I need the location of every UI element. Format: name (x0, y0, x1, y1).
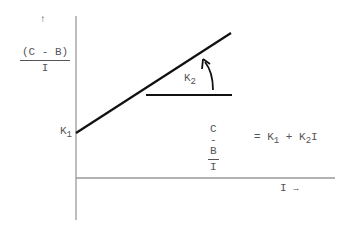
x-axis-label: I → (280, 183, 299, 194)
slope-angle-arrow (205, 62, 213, 90)
regression-line (76, 33, 231, 133)
term1-sub: 1 (274, 136, 279, 146)
equation-rhs: = K1 + K2I (254, 132, 318, 146)
slope-label-sub: 2 (191, 77, 196, 87)
term2-base: K (299, 131, 306, 143)
y-axis-label: (C - B) I (20, 47, 70, 74)
y-axis-arrow-icon: ↑ (40, 15, 46, 25)
y-axis-label-denominator: I (20, 61, 70, 74)
term1-base: K (267, 131, 274, 143)
slope-label-base: K (184, 72, 191, 84)
intercept-label: K1 (60, 126, 72, 140)
equation-lhs-denominator: I (208, 160, 219, 173)
y-axis-label-numerator: (C - B) (20, 47, 70, 61)
equals-sign: = (254, 131, 261, 143)
slope-label: K2 (184, 73, 196, 87)
x-axis-arrow-icon: → (293, 184, 298, 194)
equation-lhs: C - B I (208, 124, 219, 173)
intercept-label-base: K (60, 125, 67, 137)
plus-sign: + (286, 131, 293, 143)
x-axis-label-text: I (280, 182, 287, 194)
intercept-label-sub: 1 (67, 130, 72, 140)
term2-var: I (311, 131, 318, 143)
equation-lhs-numerator: C - B (208, 124, 219, 160)
